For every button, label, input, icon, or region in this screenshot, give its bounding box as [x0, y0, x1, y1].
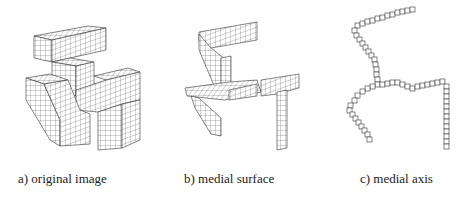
panel-original-image — [10, 0, 160, 160]
medial-axis-render — [320, 0, 467, 160]
voxel-object-render — [10, 0, 160, 160]
caption-medial-surface: b) medial surface — [184, 171, 274, 187]
medial-surface-render — [165, 0, 310, 160]
caption-original-image: a) original image — [18, 171, 107, 187]
panel-medial-axis — [320, 0, 467, 160]
caption-medial-axis: c) medial axis — [360, 171, 433, 187]
panel-medial-surface — [165, 0, 310, 160]
